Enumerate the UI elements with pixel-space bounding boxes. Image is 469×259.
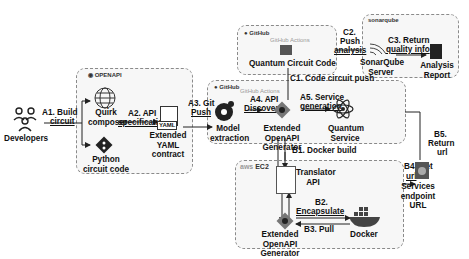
step-c2-label-3: analysis: [334, 46, 366, 56]
step-b5-label-3: url: [437, 148, 447, 158]
step-a3-label-2: Push: [191, 108, 211, 118]
openapi-generator-icon: [273, 101, 291, 119]
git-icon: [95, 136, 113, 154]
openapi-generator-icon-2: [276, 212, 294, 230]
docker-label: Docker: [350, 230, 378, 240]
quantum-circuit-code-label: Quantum Circuit Code: [249, 59, 336, 69]
aws-ec2-logo: aws EC2: [240, 163, 269, 170]
yaml-tag: YAML: [157, 121, 177, 130]
step-c1-label: C1. Code circuit push: [290, 74, 374, 84]
developers-label: Developers: [4, 134, 48, 144]
docker-whale-icon: [348, 205, 382, 227]
step-c3-label-2: quality info: [386, 45, 430, 55]
step-a1-label-2: circuit: [50, 117, 75, 127]
model-extraction-gears-icon: [213, 100, 235, 122]
ext-openapi-generator-label-2: Extended OpenAPI Generator: [250, 230, 310, 259]
quantum-service-label: Quantum Service: [328, 124, 362, 143]
model-extraction-label: Model extraction: [210, 124, 246, 143]
github-actions-logo: GitHub Actions: [270, 37, 310, 43]
quantum-atom-icon: [332, 98, 354, 120]
python-code-label: Python circuit code: [80, 155, 132, 174]
step-b1-label: B1. Docker build: [292, 146, 357, 156]
developers-icon: [12, 106, 38, 132]
analysis-report-icon: [430, 44, 442, 59]
step-b2-label-2: Encapsulate: [296, 207, 344, 217]
quirk-globe-icon: [93, 86, 117, 110]
analysis-report-label: Analysis Report: [418, 61, 456, 80]
github-actions-logo-2: GitHub Actions: [240, 88, 280, 94]
translator-api-label: Translator API: [296, 168, 330, 187]
github-logo: ● GitHub: [244, 30, 269, 36]
translator-api-icon: [276, 166, 296, 194]
github-logo-2: ● GitHub: [214, 84, 239, 90]
services-endpoint-icon: [414, 160, 430, 180]
sonarqube-logo: sonarqube: [368, 17, 399, 23]
services-endpoint-label: Services endpoint URL: [392, 182, 444, 211]
yaml-contract-label: Extended YAML contract: [146, 131, 190, 160]
sonarqube-waves-icon: [368, 40, 388, 56]
openapi-logo: ◉ OPENAPI: [88, 71, 122, 78]
code-file-icon: [280, 45, 292, 55]
